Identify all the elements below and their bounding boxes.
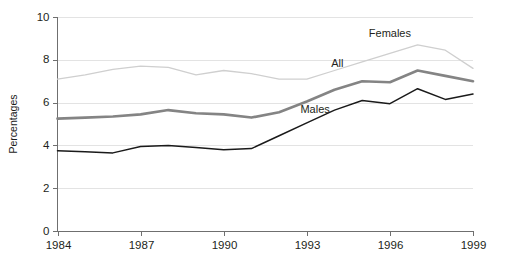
y-tick-label-6: 6 xyxy=(43,96,49,108)
y-tick-label-4: 4 xyxy=(43,139,50,151)
y-tick-label-2: 2 xyxy=(43,182,49,194)
x-tick-label-1999: 1999 xyxy=(461,239,487,251)
y-axis-title-group: Percentages xyxy=(7,95,19,154)
y-tick-label-10: 10 xyxy=(37,11,50,23)
x-tick-label-1990: 1990 xyxy=(212,239,238,251)
x-tick-label-1987: 1987 xyxy=(129,239,155,251)
percentages-line-chart: Percentages 0246810 19841987199019931996… xyxy=(0,0,517,267)
gridlines xyxy=(58,18,474,189)
x-tick-label-1993: 1993 xyxy=(295,239,321,251)
x-axis-ticks: 198419871990199319961999 xyxy=(46,231,487,251)
chart-container: Percentages 0246810 19841987199019931996… xyxy=(0,0,517,267)
y-tick-label-0: 0 xyxy=(43,225,49,237)
series-lines xyxy=(58,45,474,153)
series-label-males: Males xyxy=(300,103,330,115)
series-label-all: All xyxy=(331,57,343,69)
y-tick-label-8: 8 xyxy=(43,53,49,65)
y-axis-title: Percentages xyxy=(7,95,19,154)
y-axis-ticks: 0246810 xyxy=(37,11,58,237)
series-label-females: Females xyxy=(369,27,412,39)
x-tick-label-1996: 1996 xyxy=(378,239,404,251)
x-tick-label-1984: 1984 xyxy=(46,239,72,251)
series-line-all xyxy=(58,71,474,119)
series-line-males xyxy=(58,89,474,153)
